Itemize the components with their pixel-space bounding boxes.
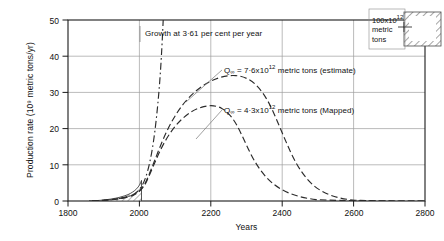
y-tick-0: 0 bbox=[33, 197, 59, 207]
q-mapped-annotation: Q∞ = 4·3x1012 metric tons (Mapped) bbox=[224, 104, 354, 115]
x-tick-2800: 2800 bbox=[402, 208, 444, 218]
q-estimate-suffix: metric tons (estimate) bbox=[275, 66, 355, 75]
legend-swatch-inner bbox=[409, 16, 436, 41]
x-axis-label: Years bbox=[68, 222, 425, 232]
q-estimate-mid: = 7·6x10 bbox=[235, 66, 269, 75]
x-tick-2600: 2600 bbox=[331, 208, 377, 218]
legend-line2: metric bbox=[372, 25, 392, 34]
q-estimate-annotation: Q∞ = 7·6x1012 metric tons (estimate) bbox=[224, 64, 356, 75]
x-tick-1800: 1800 bbox=[45, 208, 91, 218]
x-tick-2200: 2200 bbox=[188, 208, 234, 218]
q-mapped-suffix: metric tons (Mapped) bbox=[275, 106, 354, 115]
growth-rate-annotation: Growth at 3·61 per cent per year bbox=[145, 29, 262, 38]
q-mapped-mid: = 4·3x10 bbox=[235, 106, 269, 115]
y-axis-label: Production rate (10⁹ metric tons/yr) bbox=[25, 20, 35, 200]
y-tick-20: 20 bbox=[33, 124, 59, 134]
y-tick-50: 50 bbox=[33, 16, 59, 26]
legend-line3: tons bbox=[372, 35, 386, 44]
x-axis-ticks bbox=[68, 201, 425, 207]
y-tick-40: 40 bbox=[33, 52, 59, 62]
legend-line1-prefix: 100x10 bbox=[372, 16, 397, 25]
y-axis-ticks bbox=[63, 20, 69, 201]
x-tick-2400: 2400 bbox=[259, 208, 305, 218]
x-tick-2000: 2000 bbox=[116, 208, 162, 218]
chart-figure: 50 40 30 20 10 0 1800 2000 2200 2400 260… bbox=[0, 0, 444, 241]
legend-line1-exponent: 12 bbox=[397, 13, 404, 20]
y-tick-30: 30 bbox=[33, 88, 59, 98]
y-tick-10: 10 bbox=[33, 161, 59, 171]
legend-label: 100x1012metrictons bbox=[372, 12, 404, 44]
